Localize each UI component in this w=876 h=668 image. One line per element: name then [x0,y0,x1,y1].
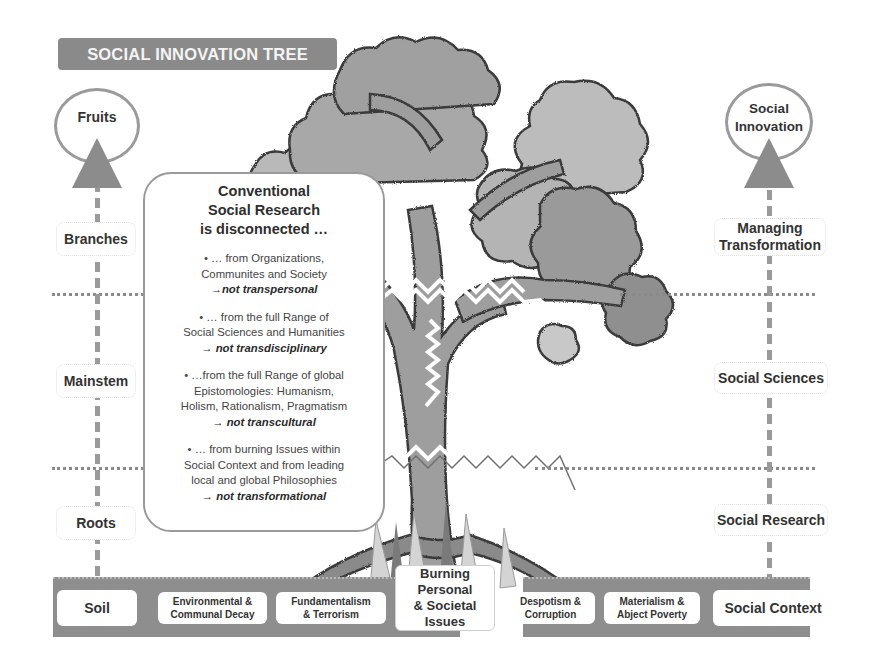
left-label-branches: Branches [56,222,136,256]
left-label-mainstem: Mainstem [56,364,136,398]
left-label-roots: Roots [56,506,136,540]
soil-issue-environmental: Environmental & Communal Decay [158,592,267,624]
disconnection-callout: Conventional Social Research is disconne… [143,172,385,532]
center-burning-issues: Burning Personal & Societal Issues [395,565,495,631]
callout-item-transpersonal: • … from Organizations, Communites and S… [145,251,383,298]
social-innovation-arrow-icon [744,138,794,188]
title-banner: SOCIAL INNOVATION TREE [58,38,337,70]
divider-branches-mainstem-right [620,293,815,296]
callout-item-transdisciplinary: • … from the full Range of Social Scienc… [145,310,383,357]
soil-label: Soil [57,590,137,626]
fruits-label: Fruits [78,109,117,125]
right-label-social-sciences: Social Sciences [714,362,828,394]
callout-item-transformational: • … from burning Issues within Social Co… [145,442,383,504]
social-context-label: Social Context [713,590,833,626]
social-innovation-label: Social Innovation [734,100,804,136]
soil-issue-fundamentalism: Fundamentalism & Terrorism [276,592,386,624]
soil-issue-despotism: Despotism & Corruption [506,592,595,624]
divider-mainstem-roots-right [535,467,815,470]
callout-heading: Conventional Social Research is disconne… [145,182,383,239]
right-label-managing-transformation: Managing Transformation [714,218,826,256]
right-label-social-research: Social Research [714,504,828,536]
fruits-arrow-icon [72,138,122,188]
soil-issue-materialism: Materialism & Abject Poverty [604,592,700,624]
callout-item-transcultural: • …from the full Range of global Epistom… [145,368,383,430]
